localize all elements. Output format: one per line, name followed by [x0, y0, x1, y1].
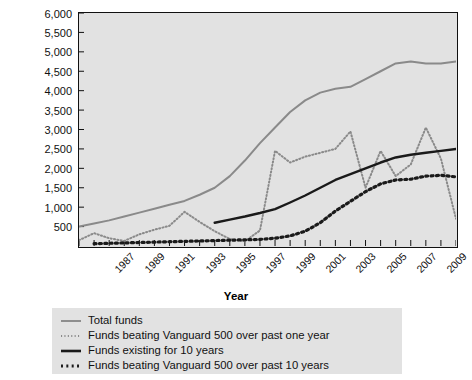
- chart-legend: Total fundsFunds beating Vanguard 500 ov…: [52, 308, 402, 374]
- series-canvas: [79, 13, 456, 246]
- legend-swatch-dotted: [60, 330, 82, 342]
- legend-swatch-dotted-bold: [60, 360, 82, 372]
- legend-item[interactable]: Total funds: [60, 313, 394, 328]
- x-tick-label: 2003: [353, 250, 378, 275]
- x-tick-label: 1999: [293, 250, 318, 275]
- x-tick-label: 2009: [444, 250, 469, 275]
- y-tick-label: 4,000: [10, 85, 72, 97]
- x-tick-label: 1995: [233, 250, 258, 275]
- legend-label: Total funds: [88, 313, 143, 328]
- legend-swatch-solid: [60, 345, 82, 357]
- x-tick-label: 1991: [172, 250, 197, 275]
- series-line-1: [79, 62, 456, 227]
- legend-item[interactable]: Funds existing for 10 years: [60, 343, 394, 358]
- y-tick-label: 6,000: [10, 8, 72, 20]
- x-tick-label: 1997: [263, 250, 288, 275]
- x-axis-title: Year: [0, 290, 472, 302]
- y-tick-label: 2,500: [10, 143, 72, 155]
- y-tick-label: 4,500: [10, 66, 72, 78]
- x-tick-label: 2001: [323, 250, 348, 275]
- legend-label: Funds beating Vanguard 500 over past 10 …: [88, 358, 329, 373]
- y-tick-label: 1,500: [10, 182, 72, 194]
- y-tick-label: 5,000: [10, 46, 72, 58]
- legend-item[interactable]: Funds beating Vanguard 500 over past one…: [60, 328, 394, 343]
- x-tick-label: 1989: [142, 250, 167, 275]
- legend-item[interactable]: Funds beating Vanguard 500 over past 10 …: [60, 358, 394, 373]
- y-tick-label: 500: [10, 221, 72, 233]
- series-line-2: [79, 128, 456, 242]
- x-tick-label: 2007: [414, 250, 439, 275]
- y-tick-label: 5,500: [10, 27, 72, 39]
- y-tick-label: 1,000: [10, 202, 72, 214]
- legend-swatch-solid: [60, 315, 82, 327]
- y-tick-label: 3,000: [10, 124, 72, 136]
- legend-label: Funds beating Vanguard 500 over past one…: [88, 328, 330, 343]
- x-axis-tick-labels: 1987198919911993199519971999200120032005…: [78, 250, 458, 290]
- x-tick-label: 1993: [202, 250, 227, 275]
- y-tick-label: 3,500: [10, 105, 72, 117]
- x-tick-label: 2005: [383, 250, 408, 275]
- y-axis-tick-labels: 5001,0001,5002,0002,5003,0003,5004,0004,…: [6, 12, 72, 248]
- chart-figure: Number 5001,0001,5002,0002,5003,0003,500…: [0, 0, 472, 380]
- legend-label: Funds existing for 10 years: [88, 343, 224, 358]
- plot-area: [78, 12, 458, 248]
- x-tick-label: 1987: [112, 250, 137, 275]
- y-tick-label: 2,000: [10, 163, 72, 175]
